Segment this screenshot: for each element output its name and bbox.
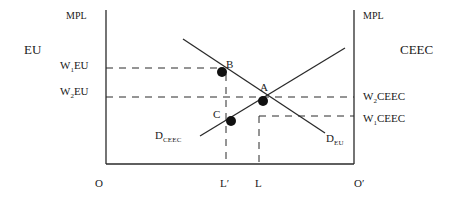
d-ceec-sub: CEEC: [163, 136, 182, 144]
w1ceec-rest: CEEC: [377, 112, 405, 124]
d-eu-label: DEU: [326, 132, 344, 146]
origin-right-label: O′: [354, 177, 364, 189]
point-a-label: A: [260, 81, 268, 93]
eu-region-label: EU: [24, 44, 41, 56]
point-a-dot: [258, 96, 268, 106]
w1eu-sub: 1: [70, 66, 74, 74]
left-axis-title: MPL: [66, 10, 87, 22]
w1ceec-label: W1CEEC: [363, 112, 405, 126]
w2ceec-rest: CEEC: [377, 90, 405, 102]
d-ceec-curve: [200, 48, 345, 136]
w2eu-main: W: [60, 85, 70, 97]
point-c-dot: [226, 116, 236, 126]
l-prime-label: L′: [220, 177, 229, 189]
origin-left-label: O: [95, 177, 103, 189]
w2eu-label: W2EU: [60, 85, 89, 99]
d-ceec-label: DCEEC: [155, 129, 182, 143]
w2ceec-sub: 2: [373, 97, 377, 105]
w2ceec-label: W2CEEC: [363, 90, 405, 104]
d-eu-curve: [183, 39, 325, 133]
w1ceec-main: W: [363, 112, 373, 124]
ceec-region-label: CEEC: [400, 44, 433, 56]
w1eu-rest: EU: [74, 59, 89, 71]
l-label: L: [255, 177, 262, 189]
d-eu-sub: EU: [334, 139, 344, 147]
w2eu-rest: EU: [74, 85, 89, 97]
w2ceec-main: W: [363, 90, 373, 102]
w2eu-sub: 2: [70, 92, 74, 100]
w1eu-label: W1EU: [60, 59, 89, 73]
point-c-label: C: [213, 108, 220, 120]
point-b-label: B: [226, 58, 233, 70]
d-ceec-main: D: [155, 129, 163, 141]
d-eu-main: D: [326, 132, 334, 144]
right-axis-title: MPL: [363, 10, 384, 22]
w1ceec-sub: 1: [373, 119, 377, 127]
w1eu-main: W: [60, 59, 70, 71]
